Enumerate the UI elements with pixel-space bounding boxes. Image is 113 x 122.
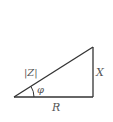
angle-arc <box>31 86 34 97</box>
hypotenuse-label: |Z| <box>24 67 38 79</box>
vertical-label: X <box>95 66 105 79</box>
impedance-triangle-diagram: |Z| φ X R <box>0 0 113 122</box>
triangle-svg: |Z| φ X R <box>0 0 113 122</box>
base-label: R <box>51 101 60 114</box>
angle-label: φ <box>37 84 44 95</box>
